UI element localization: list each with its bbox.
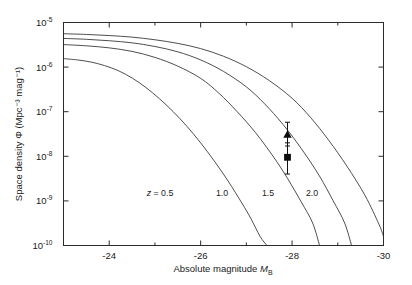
curve-label-1: z = 0.5 [146, 188, 174, 198]
curve-label-3: 1.5 [262, 188, 274, 198]
marker-square-1 [284, 154, 291, 161]
luminosity-function-chart: -24-26-28-30 10-510-610-710-810-910-10 z… [0, 0, 412, 285]
svg-text:Space density Φ (Mpc⁻³ mag⁻¹): Space density Φ (Mpc⁻³ mag⁻¹) [13, 67, 24, 201]
x-tick-label-1: -26 [194, 250, 208, 261]
y-axis-label-units: (Mpc⁻³ mag⁻¹) [13, 67, 24, 129]
y-axis-label-text: Space density [13, 141, 24, 201]
x-tick-label-0: -24 [102, 250, 116, 261]
x-axis-label-subscript: B [268, 269, 273, 276]
curve-label-4: 2.0 [306, 188, 318, 198]
x-tick-label-3: -30 [377, 250, 391, 261]
x-axis-label-text: Absolute magnitude [173, 263, 257, 274]
curve-label-2: 1.0 [216, 188, 228, 198]
figure-container: -24-26-28-30 10-510-610-710-810-910-10 z… [0, 0, 412, 285]
x-axis-label-symbol: M [260, 263, 268, 274]
y-axis-label: Space density Φ (Mpc⁻³ mag⁻¹) [13, 67, 24, 201]
x-tick-label-2: -28 [285, 250, 299, 261]
x-axis-label: Absolute magnitude MB [173, 263, 273, 276]
svg-text:Absolute magnitude MB: Absolute magnitude MB [173, 263, 273, 276]
